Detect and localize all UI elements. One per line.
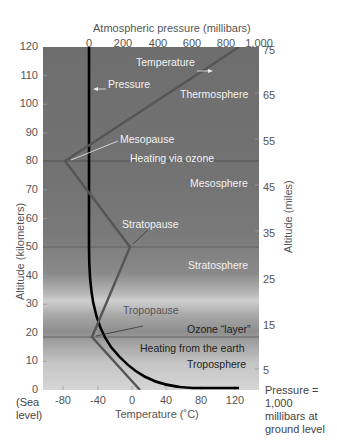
troposphere-label: Troposphere — [187, 358, 246, 370]
mesopause-arrow — [71, 141, 118, 160]
left-tick: 120 — [8, 40, 38, 52]
left-axis-title: Altitude (kilometers) — [14, 203, 26, 300]
mesopause-label: Mesopause — [120, 133, 174, 145]
right-tick: 75 — [263, 44, 275, 56]
left-tick: 0 — [8, 383, 38, 395]
right-tick: 45 — [263, 181, 275, 193]
bottom-tick: -40 — [90, 394, 106, 406]
left-tick: 10 — [8, 354, 38, 366]
ozone-layer-label: Ozone “layer” — [187, 323, 251, 335]
stratopause-arrow — [133, 230, 148, 244]
bottom-tick: 0 — [129, 394, 135, 406]
thermosphere-label: Thermosphere — [180, 88, 248, 100]
right-tick: 35 — [263, 227, 275, 239]
right-axis-title: Altitude (miles) — [282, 180, 294, 253]
heating-earth-label: Heating from the earth — [140, 342, 244, 354]
left-tick: 80 — [8, 154, 38, 166]
left-tick: 100 — [8, 97, 38, 109]
sea-level-label: (Sea level) — [16, 396, 46, 422]
left-tick: 90 — [8, 126, 38, 138]
bottom-axis-title: Temperature (˚C) — [115, 408, 199, 420]
left-tick: 110 — [8, 69, 38, 81]
right-tick: 15 — [263, 319, 275, 331]
left-tick: 70 — [8, 183, 38, 195]
heating-ozone-label: Heating via ozone — [130, 152, 214, 164]
right-tick: 55 — [263, 135, 275, 147]
bottom-tick: -80 — [55, 394, 71, 406]
top-axis-title: Atmospheric pressure (millibars) — [93, 22, 251, 34]
bottom-tick: 40 — [160, 394, 172, 406]
right-tick: 25 — [263, 273, 275, 285]
temperature-label: Temperature — [136, 56, 195, 68]
stratosphere-label: Stratosphere — [188, 259, 248, 271]
left-tick: 20 — [8, 326, 38, 338]
right-tick: 65 — [263, 89, 275, 101]
tropopause-label: Tropopause — [123, 304, 179, 316]
bottom-tick: 120 — [226, 394, 244, 406]
bottom-tick: 80 — [195, 394, 207, 406]
stratopause-label: Stratopause — [122, 218, 179, 230]
ground-pressure-note: Pressure = 1,000 millibars at ground lev… — [265, 384, 335, 436]
pressure-label: Pressure — [108, 78, 150, 90]
plot-area: Temperature Pressure Thermosphere Mesopa… — [43, 47, 259, 390]
mesosphere-label: Mesosphere — [190, 177, 248, 189]
right-tick: 5 — [263, 364, 269, 376]
